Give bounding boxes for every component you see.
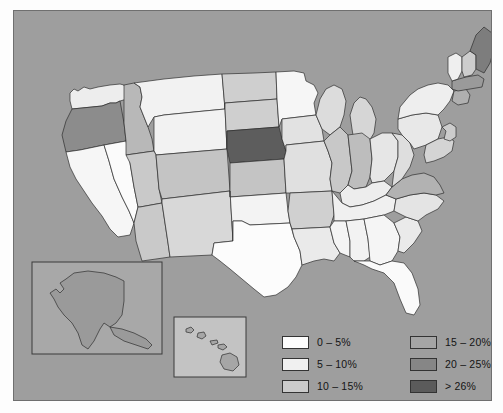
legend-swatch-20-25 (410, 358, 437, 371)
state-florida (354, 261, 420, 315)
legend-label-5-10: 5 – 10% (317, 358, 357, 370)
map-page: 0 – 5% 5 – 10% 10 – 15% 15 – 20% (0, 0, 503, 413)
legend-label-15-20: 15 – 20% (445, 336, 491, 348)
state-nebraska (227, 127, 286, 163)
state-vermont (448, 53, 462, 81)
legend-swatch-over-26 (410, 380, 437, 393)
state-colorado (156, 149, 230, 199)
hawaii-inset-group (174, 317, 246, 377)
legend-item: 15 – 20% (410, 331, 492, 353)
state-missouri (284, 141, 332, 193)
legend-label-over-26: > 26% (445, 380, 476, 392)
state-new-jersey (442, 123, 456, 141)
state-new-hampshire (462, 51, 476, 77)
legend-swatch-15-20 (410, 336, 437, 349)
legend-item: 10 – 15% (282, 375, 392, 397)
map-legend: 0 – 5% 5 – 10% 10 – 15% 15 – 20% (269, 331, 492, 401)
legend-swatch-10-15 (282, 380, 309, 393)
legend-label-10-15: 10 – 15% (317, 380, 363, 392)
legend-item: 5 – 10% (282, 353, 392, 375)
legend-swatch-5-10 (282, 358, 309, 371)
legend-label-0-5: 0 – 5% (317, 336, 351, 348)
state-connecticut-rhode-island (452, 89, 470, 105)
legend-item: > 26% (410, 375, 492, 397)
alaska-inset-group (32, 262, 162, 354)
map-frame: 0 – 5% 5 – 10% 10 – 15% 15 – 20% (13, 10, 492, 401)
legend-label-20-25: 20 – 25% (445, 358, 491, 370)
state-indiana (348, 133, 372, 189)
legend-item: 0 – 5% (282, 331, 392, 353)
state-arkansas (288, 191, 334, 229)
state-wyoming (154, 109, 227, 155)
legend-swatch-0-5 (282, 336, 309, 349)
legend-item: 20 – 25% (410, 353, 492, 375)
legend-column-left: 0 – 5% 5 – 10% 10 – 15% (282, 331, 392, 397)
state-kansas (230, 159, 286, 197)
legend-column-right: 15 – 20% 20 – 25% > 26% (410, 331, 492, 397)
